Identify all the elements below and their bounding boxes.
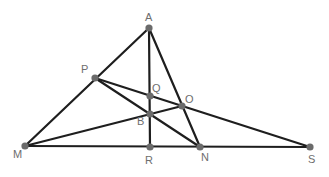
segment-am: [25, 28, 149, 146]
segment-ms: [25, 146, 310, 147]
segments-group: [25, 28, 310, 147]
point-r: [146, 143, 153, 150]
segment-ps: [95, 78, 310, 147]
point-label-o: O: [185, 93, 194, 105]
point-label-n: N: [201, 151, 209, 163]
point-label-r: R: [145, 154, 153, 166]
segment-ar: [149, 28, 150, 147]
point-m: [21, 142, 28, 149]
point-s: [306, 143, 313, 150]
point-p: [91, 74, 98, 81]
point-label-m: M: [13, 148, 22, 160]
geometry-diagram: APQOBMRNS: [0, 0, 329, 177]
point-label-p: P: [81, 63, 88, 75]
diagram-svg: APQOBMRNS: [0, 0, 329, 177]
point-label-a: A: [145, 11, 153, 23]
point-label-b: B: [137, 115, 144, 127]
segment-mo: [25, 106, 182, 146]
points-group: [21, 24, 313, 150]
point-b: [146, 110, 153, 117]
point-a: [145, 24, 152, 31]
point-n: [196, 143, 203, 150]
point-label-q: Q: [152, 82, 161, 94]
labels-group: APQOBMRNS: [13, 11, 315, 166]
point-label-s: S: [308, 153, 315, 165]
